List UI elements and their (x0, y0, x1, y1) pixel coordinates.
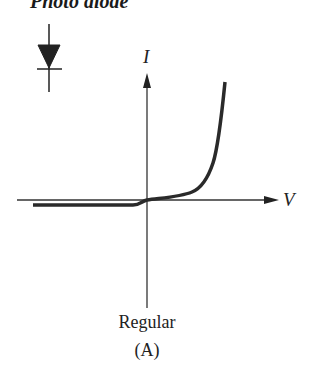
x-axis-label: V (283, 189, 295, 211)
panel-label: (A) (87, 340, 207, 361)
caption-regular: Regular (87, 312, 207, 333)
y-axis-label: I (143, 46, 149, 68)
diode-symbol-icon (37, 24, 62, 92)
y-axis (143, 73, 151, 308)
iv-curve (33, 82, 225, 205)
iv-chart (0, 0, 314, 365)
